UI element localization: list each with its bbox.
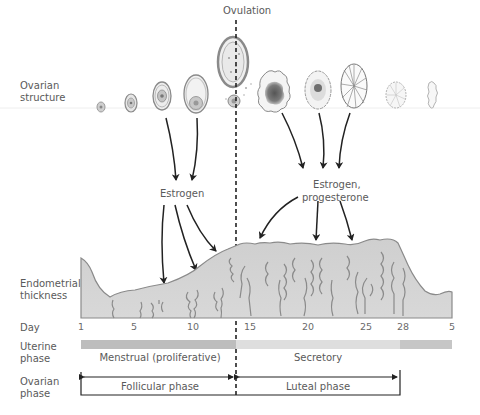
- primordial-follicle-icon: [97, 102, 105, 112]
- menstrual-cycle-diagram: [0, 0, 480, 415]
- arrow-icon: [162, 205, 164, 283]
- early-corpus-luteum-icon: [258, 71, 290, 112]
- arrow-icon: [192, 118, 197, 180]
- luteum-to-hormone-arrows: [282, 113, 350, 168]
- arrow-icon: [339, 113, 350, 168]
- ovarian-phase-brackets: [81, 370, 400, 395]
- arrow-icon: [175, 205, 196, 270]
- mature-corpus-luteum-icon: [341, 64, 367, 108]
- regressing-corpus-luteum-icon: [386, 82, 406, 108]
- graafian-follicle-ovulating-icon: [218, 37, 252, 107]
- menstrual-bar: [81, 340, 236, 349]
- phase-bracket-frame: [81, 370, 400, 395]
- arrow-icon: [282, 113, 303, 168]
- arrow-icon: [340, 201, 352, 240]
- arrow-icon: [166, 118, 176, 180]
- hormone-to-endometrium-arrows: [260, 197, 352, 240]
- arrow-icon: [187, 205, 216, 251]
- arrow-icon: [260, 197, 298, 238]
- corpus-albicans-icon: [428, 82, 438, 109]
- secretory-bar: [236, 340, 400, 349]
- antral-follicle-icon: [184, 75, 208, 113]
- secondary-follicle-icon: [153, 82, 171, 110]
- endometrium-shape: [81, 239, 452, 318]
- primary-follicle-icon: [125, 94, 137, 112]
- arrow-icon: [319, 113, 324, 168]
- follicle-to-estrogen-arrows: [166, 118, 197, 180]
- arrow-icon: [316, 201, 318, 240]
- corpus-luteum-icon: [305, 71, 331, 109]
- next-cycle-bar: [400, 340, 452, 349]
